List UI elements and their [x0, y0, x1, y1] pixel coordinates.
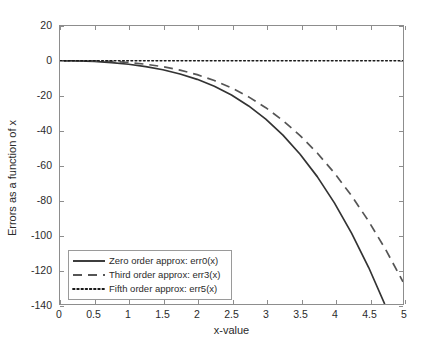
x-axis-tick-mark — [95, 26, 96, 30]
x-axis-tick-mark — [302, 300, 303, 304]
x-axis-tick-mark — [233, 300, 234, 304]
x-axis-title-text: x-value — [214, 324, 249, 336]
y-axis-tick-mark — [60, 131, 64, 132]
y-tick-label: 0 — [46, 54, 52, 66]
y-axis-tick-mark — [399, 96, 403, 97]
x-tick-label: 2 — [194, 308, 200, 320]
y-axis-tick-mark — [60, 96, 64, 97]
y-axis-tick-mark — [399, 26, 403, 27]
y-axis-tick-mark — [399, 201, 403, 202]
x-axis-tick-mark — [336, 26, 337, 30]
y-axis-tick-mark — [60, 236, 64, 237]
legend-item[interactable]: Third order approx: err3(x) — [72, 268, 227, 282]
x-tick-label: 5 — [401, 308, 407, 320]
series-line-1 — [60, 61, 403, 282]
x-axis-tick-mark — [336, 300, 337, 304]
x-axis-tick-mark — [198, 300, 199, 304]
x-axis-title: x-value — [59, 324, 404, 336]
y-axis-tick-mark — [60, 306, 64, 307]
x-tick-label: 4 — [332, 308, 338, 320]
x-tick-label: 0 — [56, 308, 62, 320]
x-axis-tick-mark — [302, 26, 303, 30]
x-tick-label: 0.5 — [86, 308, 101, 320]
y-axis-tick-mark — [399, 236, 403, 237]
legend-item-label: Third order approx: err3(x) — [109, 269, 220, 281]
x-tick-label: 3.5 — [293, 308, 308, 320]
x-axis-tick-mark — [164, 300, 165, 304]
legend-line-swatch — [72, 269, 106, 281]
y-axis-tick-mark — [399, 131, 403, 132]
y-tick-label: -100 — [31, 229, 52, 241]
y-axis-tick-mark — [60, 271, 64, 272]
x-axis-tick-mark — [129, 300, 130, 304]
x-axis-tick-mark — [405, 26, 406, 30]
legend-item[interactable]: Zero order approx: err0(x) — [72, 254, 227, 268]
y-axis-title: Errors as a function of x — [4, 0, 20, 355]
x-axis-tick-mark — [129, 26, 130, 30]
y-axis-tick-mark — [399, 61, 403, 62]
y-tick-label: -60 — [37, 159, 52, 171]
y-tick-label: -40 — [37, 124, 52, 136]
x-tick-label: 1.5 — [155, 308, 170, 320]
chart-legend[interactable]: Zero order approx: err0(x)Third order ap… — [68, 250, 232, 300]
y-tick-label: 20 — [40, 19, 52, 31]
x-axis-tick-mark — [267, 26, 268, 30]
y-axis-title-text: Errors as a function of x — [6, 119, 18, 235]
legend-line-swatch — [72, 255, 106, 267]
x-axis-tick-mark — [95, 300, 96, 304]
legend-item-label: Zero order approx: err0(x) — [109, 255, 218, 267]
y-tick-label: -20 — [37, 89, 52, 101]
x-tick-label: 2.5 — [224, 308, 239, 320]
x-axis-tick-mark — [405, 300, 406, 304]
x-axis-tick-mark — [371, 26, 372, 30]
y-axis-tick-mark — [399, 306, 403, 307]
x-axis-tick-mark — [371, 300, 372, 304]
y-tick-label: -140 — [31, 299, 52, 311]
legend-item-label: Fifth order approx: err5(x) — [109, 283, 217, 295]
legend-line-swatch — [72, 283, 106, 295]
y-axis-tick-mark — [60, 166, 64, 167]
x-tick-label: 1 — [125, 308, 131, 320]
y-axis-tick-mark — [399, 166, 403, 167]
y-axis-tick-mark — [60, 61, 64, 62]
x-axis-tick-mark — [164, 26, 165, 30]
figure-canvas: Errors as a function of x 200-20-40-60-8… — [0, 0, 426, 355]
x-axis-tick-mark — [233, 26, 234, 30]
y-axis-tick-mark — [60, 26, 64, 27]
y-axis-tick-mark — [399, 271, 403, 272]
y-tick-label: -80 — [37, 194, 52, 206]
x-axis-tick-mark — [60, 300, 61, 304]
y-axis-tick-mark — [60, 201, 64, 202]
y-tick-label: -120 — [31, 264, 52, 276]
x-axis-tick-mark — [198, 26, 199, 30]
x-tick-label: 4.5 — [362, 308, 377, 320]
legend-item[interactable]: Fifth order approx: err5(x) — [72, 282, 227, 296]
x-axis-tick-mark — [267, 300, 268, 304]
x-tick-label: 3 — [263, 308, 269, 320]
